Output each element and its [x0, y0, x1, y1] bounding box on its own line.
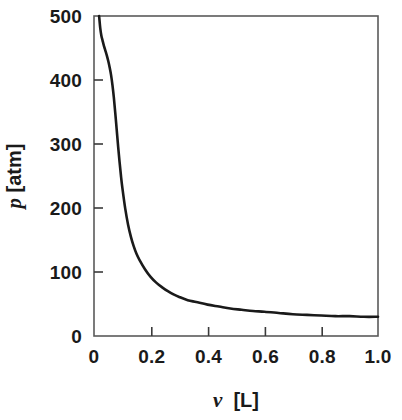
plot-frame [94, 16, 378, 336]
y-tick-label-400: 400 [18, 71, 82, 90]
x-axis-ticks [152, 327, 322, 336]
x-axis-symbol: v [213, 388, 222, 412]
x-tick-label-0-6: 0.6 [252, 347, 279, 366]
y-axis-ticks [94, 80, 103, 272]
y-tick-label-300: 300 [18, 135, 82, 154]
y-tick-label-200: 200 [18, 199, 82, 218]
x-tick-label-0-2: 0.2 [138, 347, 165, 366]
y-tick-label-500: 500 [18, 7, 82, 26]
data-series-isotherm [99, 16, 378, 317]
x-tick-label-0-8: 0.8 [309, 347, 336, 366]
y-axis-symbol: p [2, 198, 26, 209]
x-axis-title: v [L] [213, 390, 259, 411]
x-tick-label-1-0: 1.0 [364, 347, 391, 366]
y-tick-label-100: 100 [18, 263, 82, 282]
y-axis-title: p [atm] [4, 144, 25, 209]
y-tick-label-0: 0 [18, 327, 82, 346]
x-tick-label-0: 0 [89, 347, 100, 366]
x-axis-unit: [L] [233, 389, 259, 411]
y-axis-unit: [atm] [3, 144, 25, 193]
x-tick-label-0-4: 0.4 [195, 347, 222, 366]
chart-figure: 500 400 300 200 100 0 0 0.2 0.4 0.6 0.8 … [0, 0, 402, 420]
